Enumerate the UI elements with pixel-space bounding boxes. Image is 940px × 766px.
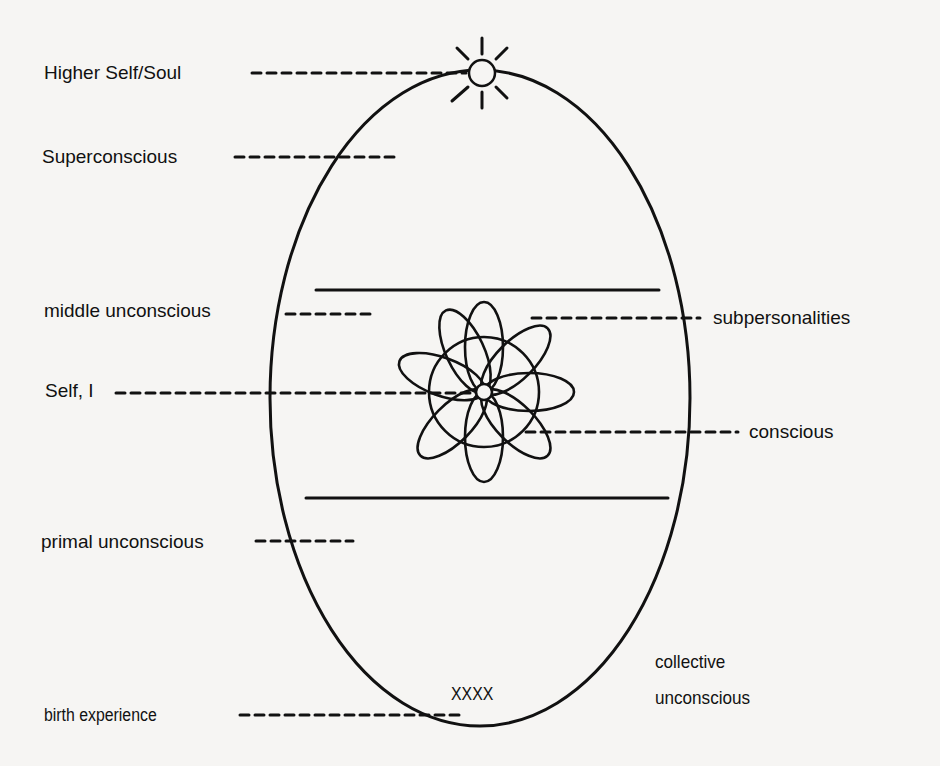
egg-diagram: Higher Self/Soul Superconscious middle u…: [0, 0, 940, 766]
label-higher-self: Higher Self/Soul: [44, 62, 181, 84]
label-subpersonalities: subpersonalities: [713, 307, 850, 329]
diagram-canvas: [0, 0, 940, 766]
label-birth-marker: XXXX: [451, 683, 493, 705]
label-collective-unconscious: collective unconscious: [655, 651, 750, 723]
label-birth-experience: birth experience: [44, 704, 157, 726]
label-self-i: Self, I: [45, 380, 94, 402]
sun-icon: [452, 38, 507, 108]
self-center-icon: [476, 384, 492, 400]
label-middle-unconscious: middle unconscious: [44, 300, 211, 322]
label-superconscious: Superconscious: [42, 146, 177, 168]
collective-line-2: unconscious: [655, 687, 750, 723]
label-conscious: conscious: [749, 421, 834, 443]
label-primal-unconscious: primal unconscious: [41, 531, 204, 553]
collective-line-1: collective: [655, 651, 750, 687]
